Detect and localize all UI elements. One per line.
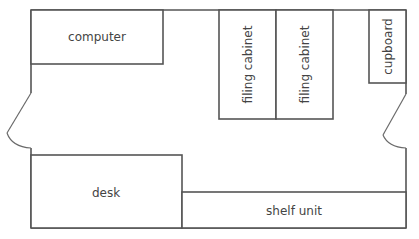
desk-label: desk [92, 186, 120, 200]
left-door [7, 93, 31, 148]
left-door-leaf [7, 93, 31, 133]
right-door-leaf [383, 94, 406, 135]
desk: desk [31, 155, 182, 228]
computer: computer [31, 10, 163, 64]
filing-cabinet-2: filing cabinet [276, 10, 333, 119]
shelf-unit: shelf unit [182, 192, 406, 228]
floor-plan: computer filing cabinet filing cabinet c… [0, 0, 419, 239]
left-door-swing-arc [7, 133, 31, 148]
computer-label: computer [68, 30, 126, 44]
right-door [383, 94, 406, 148]
filing-cabinet-2-label: filing cabinet [298, 25, 312, 103]
filing-cabinet-1-label: filing cabinet [241, 25, 255, 103]
cupboard: cupboard [369, 10, 406, 83]
filing-cabinet-1: filing cabinet [219, 10, 276, 119]
right-door-swing-arc [383, 135, 406, 148]
shelf-unit-label: shelf unit [266, 204, 322, 218]
cupboard-label: cupboard [381, 18, 395, 74]
